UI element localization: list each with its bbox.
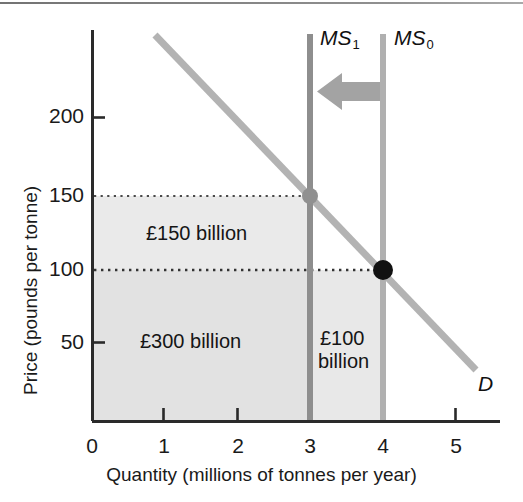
x-tick-label-0: 0 [72,434,112,458]
region-label-100-line1: £100 [320,327,365,350]
x-axis-title: Quantity (millions of tonnes per year) [0,464,523,486]
demand-curve-label: D [478,372,493,396]
ms0-label-subscript: 0 [426,37,434,52]
region-label-100-line2: billion [318,350,369,373]
region-label-300: £300 billion [140,330,241,353]
equilibrium-dot-new [302,188,318,204]
y-axis-title: Price (pounds per tonne) [20,186,42,395]
shift-arrow-icon [317,73,380,110]
ms1-label-subscript: 1 [352,37,360,52]
x-tick-label-2: 2 [218,434,258,458]
y-tick-label-200: 200 [34,104,84,128]
ms0-label-base: MS [394,26,426,49]
economics-money-market-figure: 200 150 100 50 0 1 2 3 4 5 Price (pounds… [0,0,523,502]
x-tick-label-4: 4 [363,434,403,458]
ms1-label-base: MS [320,26,352,49]
x-tick-label-5: 5 [436,434,476,458]
ms1-label: MS1 [320,26,360,50]
ms0-label: MS0 [394,26,434,50]
x-tick-label-1: 1 [144,434,184,458]
region-label-150: £150 billion [146,222,247,245]
equilibrium-dot-initial [373,260,393,280]
x-tick-label-3: 3 [290,434,330,458]
chart-canvas [0,0,523,502]
